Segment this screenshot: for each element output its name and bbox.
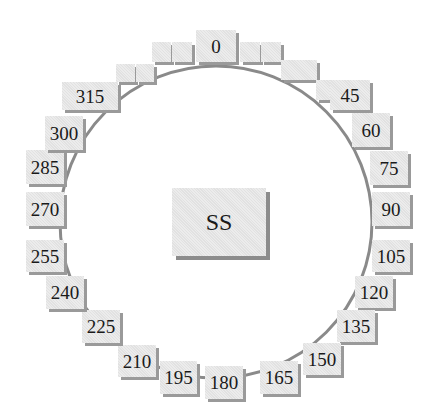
angle-label-270: 270	[26, 192, 64, 226]
angle-label-text: 45	[341, 86, 360, 105]
angle-label-text: 165	[265, 368, 294, 387]
blank-box	[240, 42, 260, 62]
angle-label-text: 135	[342, 317, 371, 336]
angle-label-text: 270	[31, 200, 60, 219]
angle-label-text: 255	[31, 247, 60, 266]
angle-label-text: 150	[308, 350, 337, 369]
angle-label-45: 45	[330, 80, 370, 110]
blank-box	[172, 42, 192, 62]
angle-label-75: 75	[370, 151, 408, 185]
angle-label-300: 300	[45, 116, 83, 150]
angle-label-text: 240	[51, 283, 80, 302]
angle-label-90: 90	[372, 192, 410, 226]
angle-label-120: 120	[355, 276, 393, 308]
angle-label-text: 300	[50, 124, 79, 143]
angle-label-text: 120	[360, 283, 389, 302]
angle-label-text: 315	[76, 87, 105, 106]
blank-box	[116, 64, 135, 82]
angle-label-255: 255	[26, 240, 64, 272]
angle-label-315: 315	[62, 82, 118, 110]
angle-label-285: 285	[26, 150, 64, 184]
blank-box	[152, 42, 171, 62]
angle-label-135: 135	[337, 310, 375, 342]
blank-box	[261, 42, 281, 62]
angle-label-text: 180	[210, 373, 239, 392]
angle-label-text: 75	[380, 159, 399, 178]
angle-label-60: 60	[352, 113, 390, 147]
blank-box	[316, 80, 330, 100]
compass-ring-diagram: 0456075901051201351501651801952102252402…	[0, 0, 432, 418]
angle-label-0: 0	[196, 30, 236, 62]
angle-label-text: 0	[211, 37, 221, 56]
angle-label-240: 240	[46, 276, 84, 309]
angle-label-text: 195	[164, 368, 193, 387]
blank-box	[136, 64, 154, 82]
angle-label-text: 105	[377, 247, 406, 266]
angle-label-text: 90	[382, 200, 401, 219]
angle-label-150: 150	[303, 343, 341, 375]
angle-label-165: 165	[260, 361, 298, 394]
angle-label-225: 225	[82, 310, 120, 343]
center-label: SS	[206, 210, 233, 234]
angle-label-210: 210	[118, 345, 156, 377]
angle-label-105: 105	[372, 240, 410, 272]
angle-label-text: 285	[31, 158, 60, 177]
center-box-ss: SS	[172, 188, 266, 256]
angle-label-text: 210	[123, 352, 152, 371]
angle-label-text: 60	[362, 121, 381, 140]
angle-label-text: 225	[87, 317, 116, 336]
angle-label-195: 195	[160, 361, 197, 394]
angle-label-180: 180	[205, 366, 243, 399]
blank-box	[281, 60, 317, 80]
